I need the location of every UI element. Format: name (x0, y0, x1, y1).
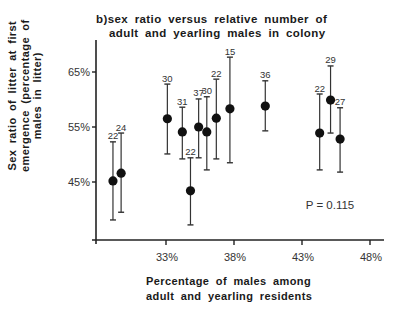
marker (108, 176, 117, 185)
sample-size-label: 29 (325, 54, 336, 65)
data-point: 22 (211, 68, 222, 159)
marker (261, 102, 270, 111)
axes: 45%55%65%33%38%43%48% (68, 40, 384, 263)
marker (212, 114, 221, 123)
marker (186, 186, 195, 195)
data-point: 22 (185, 146, 196, 225)
marker (194, 122, 203, 131)
marker (335, 135, 344, 144)
data-point: 29 (325, 54, 336, 133)
plot-area: 45%55%65%33%38%43%48% 222430312237302215… (0, 0, 395, 312)
sample-size-label: 22 (185, 146, 196, 157)
sample-size-label: 36 (260, 69, 271, 80)
x-tick-label: 33% (156, 251, 178, 263)
data-points: 22243031223730221536222927 (108, 46, 346, 225)
x-tick-label: 38% (224, 251, 246, 263)
sample-size-label: 31 (177, 96, 188, 107)
marker (117, 169, 126, 178)
data-point: 30 (162, 73, 173, 154)
x-tick-label: 43% (292, 251, 314, 263)
data-point: 36 (260, 69, 271, 131)
marker (326, 95, 335, 104)
marker (163, 114, 172, 123)
marker (315, 128, 324, 137)
sample-size-label: 24 (116, 122, 127, 133)
y-tick-label: 65% (68, 66, 90, 78)
data-point: 22 (108, 130, 119, 220)
y-tick-label: 45% (68, 176, 90, 188)
x-tick-label: 48% (360, 251, 382, 263)
marker (202, 127, 211, 136)
data-point: 15 (225, 46, 236, 163)
sample-size-label: 30 (202, 85, 213, 96)
data-point: 27 (335, 96, 346, 172)
p-value-annotation: P = 0.115 (306, 199, 355, 211)
data-point: 22 (314, 83, 325, 170)
sample-size-label: 30 (162, 73, 173, 84)
marker (225, 104, 234, 113)
marker (178, 127, 187, 136)
sample-size-label: 15 (225, 46, 236, 57)
sample-size-label: 22 (314, 83, 325, 94)
sample-size-label: 27 (335, 96, 346, 107)
y-tick-label: 55% (68, 121, 90, 133)
sample-size-label: 22 (211, 68, 222, 79)
